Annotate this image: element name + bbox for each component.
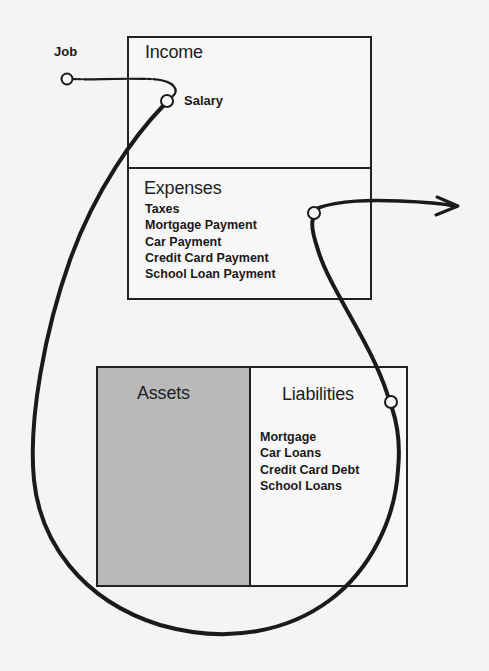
balance-sheet-divider [249,366,251,587]
liabilities-list: Mortgage Car Loans Credit Card Debt Scho… [260,429,359,494]
expense-item: Taxes [145,201,276,217]
liabilities-title: Liabilities [282,384,354,405]
expense-item: Car Payment [145,234,276,250]
expenses-list: Taxes Mortgage Payment Car Payment Credi… [145,201,276,282]
liability-item: Car Loans [260,445,359,461]
job-label: Job [54,44,77,59]
salary-label: Salary [184,93,223,108]
liability-item: School Loans [260,478,359,494]
expense-item: Mortgage Payment [145,217,276,233]
liability-item: Credit Card Debt [260,462,359,478]
liability-item: Mortgage [260,429,359,445]
expense-item: Credit Card Payment [145,250,276,266]
expense-item: School Loan Payment [145,266,276,282]
expenses-title: Expenses [144,178,221,199]
assets-title: Assets [137,383,190,404]
income-title: Income [145,42,203,63]
arrow-head-icon [436,197,458,215]
job-node-icon [62,74,73,85]
